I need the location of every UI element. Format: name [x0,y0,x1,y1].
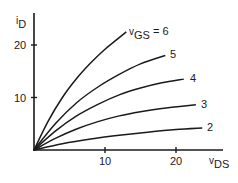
x-tick-label-20: 20 [170,155,182,167]
drain-characteristics-chart: 20 10 10 20 iD vDS vGS = 6 5 4 3 2 [0,0,238,183]
y-axis-label: iD [16,15,26,30]
curve-vgs-4 [34,79,184,150]
x-axis-label: vDS [209,155,229,170]
curves [34,32,202,150]
curve-label-vgs-2: 2 [207,121,213,133]
curve-label-vgs-6: vGS = 6 [129,25,169,41]
curve-label-vgs-3: 3 [201,98,207,110]
curve-label-vgs-5: 5 [170,48,176,60]
y-tick-label-10: 10 [14,92,26,104]
curve-label-vgs-4: 4 [190,72,196,84]
x-tick-label-10: 10 [99,155,111,167]
y-tick-label-20: 20 [14,39,26,51]
curve-vgs-3 [34,105,196,150]
curve-vgs-2 [34,128,202,150]
